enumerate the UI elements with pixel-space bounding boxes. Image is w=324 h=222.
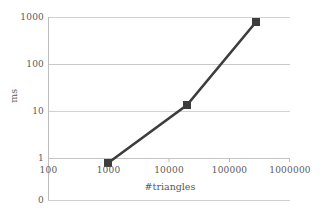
data-point-2 xyxy=(183,101,191,109)
chart-container: 1000 100 10 1 0 100 1000 10000 100000 10… xyxy=(0,0,324,222)
series-markers-ms xyxy=(104,18,260,167)
x-tick-label-10000: 10000 xyxy=(145,166,193,175)
x-tick-label-100: 100 xyxy=(28,166,69,175)
x-axis-title: #triangles xyxy=(120,182,220,192)
y-axis-title: ms xyxy=(9,76,19,116)
y-tick-label-0: 0 xyxy=(8,196,44,205)
data-point-3 xyxy=(252,18,260,26)
series-line-ms xyxy=(108,22,256,163)
y-tick-label-100: 100 xyxy=(8,60,44,69)
y-tick-label-1000: 1000 xyxy=(8,13,44,22)
x-tick-label-100000: 100000 xyxy=(203,166,256,175)
y-tick-label-1: 1 xyxy=(8,154,44,163)
x-tick-label-1000000: 1000000 xyxy=(261,166,319,175)
x-tick-label-1000: 1000 xyxy=(87,166,130,175)
